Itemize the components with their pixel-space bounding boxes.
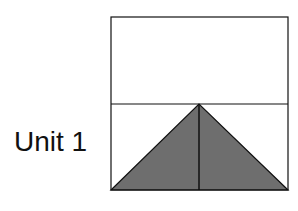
unit-diagram xyxy=(0,0,298,211)
